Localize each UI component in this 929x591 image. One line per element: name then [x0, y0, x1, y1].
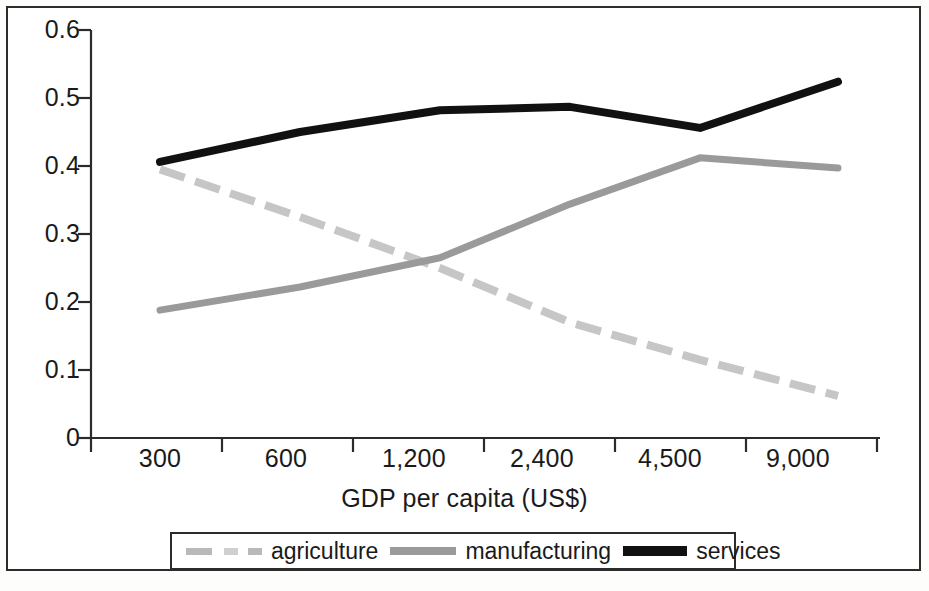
legend-label-services: services — [696, 540, 780, 563]
x-tick-label-600: 600 — [226, 446, 346, 471]
solid-black-line-swatch-icon — [623, 546, 687, 556]
legend-item-services: services — [611, 540, 780, 563]
legend-label-agriculture: agriculture — [271, 540, 378, 563]
x-tick-label-9000: 9,000 — [738, 446, 858, 471]
y-tick-label-3: 0.3 — [45, 221, 80, 246]
x-tick-label-300: 300 — [100, 446, 220, 471]
y-tick-label-5: 0.1 — [45, 357, 80, 382]
y-tick-label-2: 0.4 — [45, 153, 80, 178]
chart-legend: agriculture manufacturing services — [170, 532, 736, 570]
figure-root: 0.6 0.5 0.4 0.3 0.2 0.1 0 300 600 1,200 … — [0, 0, 929, 591]
legend-label-manufacturing: manufacturing — [465, 540, 611, 563]
y-tick-label-6: 0 — [66, 425, 80, 450]
solid-gray-line-swatch-icon — [390, 547, 456, 555]
x-tick-label-2400: 2,400 — [482, 446, 602, 471]
y-tick-label-1: 0.5 — [45, 85, 80, 110]
legend-item-manufacturing: manufacturing — [378, 540, 611, 563]
dashed-light-gray-line-swatch-icon — [186, 548, 262, 555]
legend-item-agriculture: agriculture — [182, 540, 378, 563]
y-tick-label-0: 0.6 — [45, 17, 80, 42]
y-tick-label-4: 0.2 — [45, 289, 80, 314]
x-axis-title: GDP per capita (US$) — [0, 484, 929, 513]
x-tick-label-1200: 1,200 — [354, 446, 474, 471]
x-tick-label-4500: 4,500 — [610, 446, 730, 471]
